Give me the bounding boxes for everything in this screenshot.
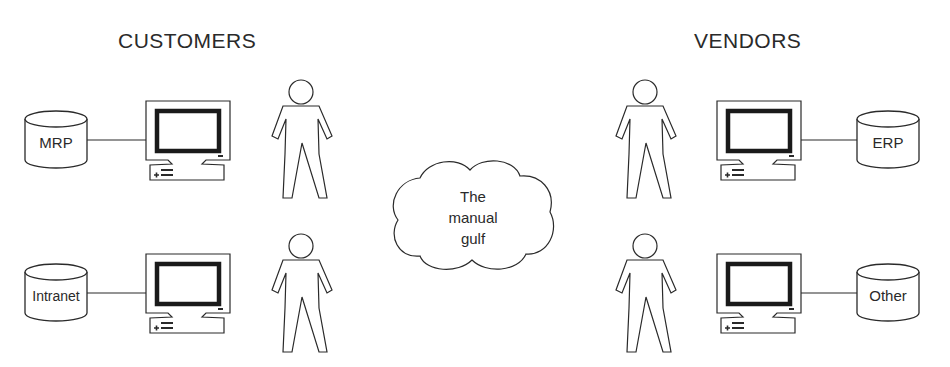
cloud-line-3: gulf (461, 230, 486, 247)
person-icon (616, 234, 676, 352)
computer-icon (146, 254, 230, 333)
manual-gulf-diagram: MRP Intranet The manual gulf ERP (0, 0, 950, 367)
database-label: Other (869, 287, 907, 304)
person-icon (272, 80, 332, 198)
cloud-line-2: manual (448, 209, 497, 226)
customer-row-1: MRP (25, 80, 332, 198)
cloud-line-1: The (460, 188, 486, 205)
person-icon (616, 80, 676, 198)
vendor-row-2: Other (616, 234, 919, 352)
database-icon: Intranet (25, 264, 87, 321)
database-label: MRP (39, 134, 72, 151)
database-icon: MRP (25, 111, 87, 168)
computer-icon (717, 254, 801, 333)
database-icon: ERP (857, 111, 919, 168)
vendor-row-1: ERP (616, 80, 919, 198)
database-label: Intranet (32, 288, 80, 304)
database-label: ERP (873, 134, 904, 151)
computer-icon (146, 101, 230, 180)
database-icon: Other (857, 264, 919, 321)
person-icon (272, 234, 332, 352)
manual-gulf-cloud: The manual gulf (393, 161, 553, 270)
customer-row-2: Intranet (25, 234, 332, 352)
computer-icon (717, 101, 801, 180)
